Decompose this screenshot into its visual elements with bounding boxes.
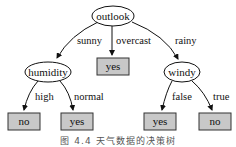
node-outlook: outlook	[92, 6, 134, 26]
node-outlook-label: outlook	[96, 10, 130, 22]
edge-label-overcast: overcast	[116, 35, 151, 46]
edge-label-normal: normal	[74, 91, 104, 102]
svg-text:no: no	[19, 115, 31, 127]
svg-text:yes: yes	[70, 115, 85, 127]
svg-text:no: no	[210, 115, 222, 127]
edge-label-true: true	[213, 91, 230, 102]
edge-normal	[60, 81, 73, 110]
edge-label-false: false	[172, 91, 192, 102]
edge-true	[192, 81, 212, 110]
leaf-overcast-yes: yes	[97, 58, 129, 75]
edge-label-high: high	[35, 91, 54, 102]
edge-label-sunny: sunny	[77, 35, 103, 46]
edge-false	[162, 81, 172, 110]
svg-text:humidity: humidity	[28, 66, 68, 78]
node-humidity: humidity	[25, 62, 71, 82]
leaf-true-no: no	[199, 113, 231, 130]
leaf-high-no: no	[8, 113, 40, 130]
edge-label-rainy: rainy	[175, 35, 197, 46]
decision-tree: sunny overcast rainy high normal false t…	[0, 0, 236, 147]
node-windy: windy	[164, 62, 200, 82]
svg-text:windy: windy	[168, 66, 196, 78]
svg-text:yes: yes	[106, 60, 121, 72]
figure-caption: 图 4.4 天气数据的决策树	[0, 134, 236, 147]
leaf-normal-yes: yes	[61, 113, 93, 130]
leaf-false-yes: yes	[144, 113, 176, 130]
svg-text:yes: yes	[153, 115, 168, 127]
